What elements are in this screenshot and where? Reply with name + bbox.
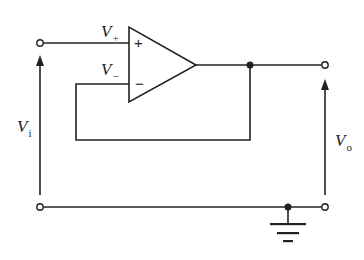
output-terminal-top	[322, 62, 328, 68]
ground-bar-3	[283, 240, 293, 242]
ground-junction-dot	[285, 204, 292, 211]
label-v-out-main: V	[335, 131, 345, 150]
opamp-plus-sign: +	[134, 35, 143, 50]
label-v-out-sub: o	[346, 141, 352, 153]
label-v-out: Vo	[335, 132, 351, 149]
label-v-in: Vi	[17, 118, 30, 135]
input-terminal-top	[37, 40, 43, 46]
vi-arrowhead-icon	[36, 55, 44, 66]
label-v-in-sub: i	[28, 127, 31, 139]
output-junction-dot	[247, 62, 254, 69]
label-v-minus-sub: −	[112, 70, 118, 82]
ground-bar-1	[270, 223, 306, 225]
circuit-wires	[0, 0, 364, 260]
label-v-minus-main: V	[101, 60, 111, 79]
label-v-plus: V+	[101, 23, 118, 40]
ground-bar-2	[277, 232, 299, 234]
label-v-plus-sub: +	[112, 32, 118, 44]
opamp-minus-sign: −	[135, 76, 144, 91]
circuit-diagram: V+ V− Vi Vo + −	[0, 0, 364, 260]
label-v-in-main: V	[17, 117, 27, 136]
label-v-plus-main: V	[101, 22, 111, 41]
label-v-minus: V−	[101, 61, 118, 78]
input-terminal-bottom	[37, 204, 43, 210]
output-terminal-bottom	[322, 204, 328, 210]
vo-arrowhead-icon	[321, 79, 329, 90]
